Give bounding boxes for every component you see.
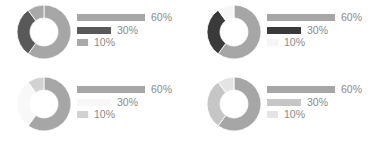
donut-chart <box>206 4 262 60</box>
legend-bar-60pct <box>77 14 145 21</box>
legend-bar-30pct <box>267 27 301 34</box>
legend-label: 30% <box>307 97 328 107</box>
legend-bar-60pct <box>267 86 335 93</box>
legend-label: 10% <box>94 37 115 47</box>
legend-label: 60% <box>341 84 362 94</box>
legend-label: 30% <box>307 25 328 35</box>
donut-chart-panel-1: 60%30%10% <box>0 0 190 70</box>
legend-bar-10pct <box>77 39 88 46</box>
donut-chart-panel-4: 60%30%10% <box>190 72 380 141</box>
legend-bar-60pct <box>77 86 145 93</box>
donut-chart-panel-3: 60%30%10% <box>0 72 190 141</box>
legend-label: 30% <box>117 97 138 107</box>
legend-label: 10% <box>284 37 305 47</box>
legend-label: 60% <box>151 12 172 22</box>
legend-label: 10% <box>284 109 305 119</box>
donut-chart-panel-2: 60%30%10% <box>190 0 380 70</box>
legend-bar-30pct <box>77 99 111 106</box>
legend-bar-30pct <box>77 27 111 34</box>
legend-bar-60pct <box>267 14 335 21</box>
donut-chart <box>206 76 262 132</box>
legend-label: 30% <box>117 25 138 35</box>
donut-chart <box>16 76 72 132</box>
legend-label: 60% <box>151 84 172 94</box>
legend-bar-10pct <box>77 111 88 118</box>
legend-label: 10% <box>94 109 115 119</box>
legend-bar-10pct <box>267 39 278 46</box>
legend-label: 60% <box>341 12 362 22</box>
legend-bar-30pct <box>267 99 301 106</box>
legend-bar-10pct <box>267 111 278 118</box>
donut-chart <box>16 4 72 60</box>
